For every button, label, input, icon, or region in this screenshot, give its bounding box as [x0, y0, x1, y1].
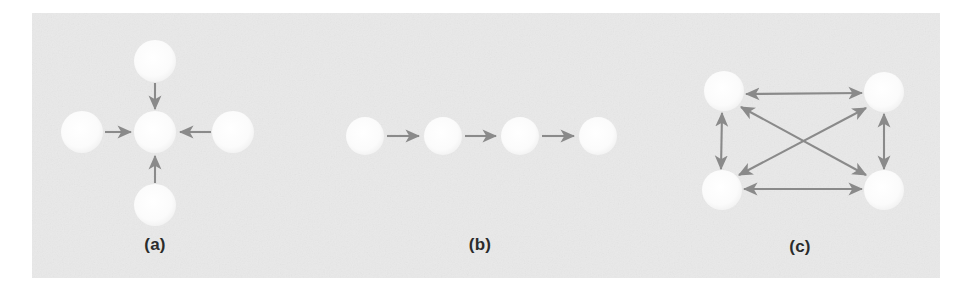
node-c-top-right	[864, 72, 904, 112]
edge-c-topleft-bottomleft	[721, 113, 722, 169]
edge-c-topleft-topright	[746, 93, 862, 94]
node-b-2	[424, 117, 462, 155]
node-a-bottom	[134, 184, 176, 226]
panel-a-caption: (a)	[144, 235, 165, 254]
node-b-1	[346, 117, 384, 155]
node-b-4	[579, 117, 617, 155]
panel-c-caption: (c)	[789, 237, 810, 256]
node-a-top	[134, 40, 176, 82]
panel-b-caption: (b)	[469, 235, 491, 254]
node-a-center	[134, 111, 176, 153]
node-b-3	[501, 117, 539, 155]
node-c-bottom-right	[864, 170, 904, 210]
node-a-left	[61, 111, 103, 153]
node-a-right	[212, 111, 254, 153]
node-c-bottom-left	[702, 170, 742, 210]
network-topology-figure: (a) (b)	[0, 0, 962, 297]
figure-root: (a) (b)	[0, 0, 962, 297]
node-c-top-left	[704, 71, 744, 111]
